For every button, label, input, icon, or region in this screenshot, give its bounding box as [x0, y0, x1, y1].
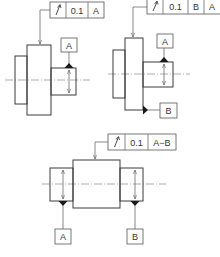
svg-text:B: B — [165, 106, 171, 116]
datum-triangle-icon — [160, 57, 169, 62]
tolerance-value: 0.1 — [130, 138, 143, 148]
right-shaft — [143, 62, 173, 87]
svg-text:A: A — [66, 41, 72, 51]
right-shaft — [120, 168, 143, 201]
tolerance-value: 0.1 — [71, 6, 84, 16]
right-shaft — [51, 68, 76, 95]
runout-tolerance-diagram: 0.1 A A 0.1 B A — [0, 0, 220, 257]
datum-reference: A — [93, 6, 99, 16]
datum-b: B — [127, 201, 143, 244]
fcf-leader — [133, 7, 147, 37]
fcf-leader — [95, 142, 108, 159]
left-shaft — [50, 168, 73, 201]
feature-control-frame: 0.1 A — [50, 2, 104, 18]
datum-a: A — [55, 201, 71, 244]
datum-reference-primary: B — [193, 2, 199, 12]
figure-1: 0.1 A A — [5, 2, 104, 115]
tolerance-value: 0.1 — [169, 2, 182, 12]
datum-reference-secondary: A — [209, 2, 215, 12]
datum-triangle-icon — [65, 63, 74, 68]
feature-control-frame: 0.1 B A — [147, 0, 220, 14]
fcf-leader — [40, 10, 50, 44]
datum-a: A — [61, 38, 77, 68]
feature-control-frame: 0.1 A−B — [108, 134, 176, 150]
figure-3: 0.1 A−B A B — [42, 134, 176, 244]
svg-text:B: B — [132, 232, 138, 242]
datum-b: B — [143, 103, 177, 118]
datum-reference-common: A−B — [153, 138, 170, 148]
svg-text:A: A — [162, 37, 168, 47]
figure-2: 0.1 B A A B — [108, 0, 220, 118]
svg-text:A: A — [60, 232, 66, 242]
datum-a: A — [157, 34, 173, 62]
